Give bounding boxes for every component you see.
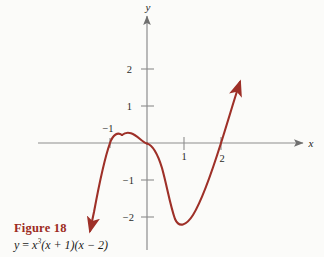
figure-caption-equation: y = x3(x + 1)(x − 2) [14, 238, 194, 253]
figure-caption-title: Figure 18 [14, 221, 194, 236]
x-tick-label-1: 1 [181, 151, 186, 162]
equation-factor-2: (x − 2) [75, 238, 108, 252]
curve-right-branch [147, 82, 240, 225]
curve-left-branch [90, 134, 122, 231]
y-tick-label-minus-1: −1 [123, 175, 134, 186]
x-tick-label-2: 2 [219, 153, 224, 164]
equation-lhs: y [14, 238, 19, 252]
x-axis-label: x [308, 137, 314, 149]
x-tick-label-minus-1: −1 [102, 123, 113, 134]
y-axis-label: y [145, 1, 151, 13]
graph-canvas: 2 1 −1 −2 1 2 −1 x y [0, 0, 324, 257]
figure-page: 2 1 −1 −2 1 2 −1 x y Figure 18 y = x3(x … [0, 0, 324, 257]
equation-equals: = [22, 238, 29, 252]
equation-factor-1: (x + 1) [41, 238, 74, 252]
curve-middle-bump [122, 133, 147, 144]
y-tick-label-1: 1 [127, 101, 132, 112]
y-tick-label-2: 2 [127, 64, 132, 75]
figure-caption: Figure 18 y = x3(x + 1)(x − 2) [14, 221, 194, 253]
